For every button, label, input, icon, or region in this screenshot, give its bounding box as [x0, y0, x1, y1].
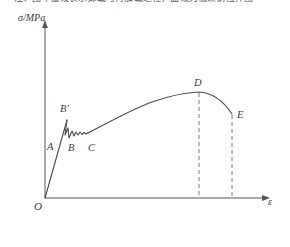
page-root: 注：图中虚线表示卸载与再加载过程，曲线为低碳钢拉伸图 · σ/MPa ε O: [0, 0, 290, 247]
clipped-header-strip: 注：图中虚线表示卸载与再加载过程，曲线为低碳钢拉伸图 ·: [0, 0, 290, 8]
point-label-A: A: [46, 141, 54, 152]
curve-yield-plateau: [65, 120, 88, 138]
x-axis-label: ε: [268, 196, 272, 207]
x-axis: [45, 195, 270, 201]
origin-label: O: [34, 200, 42, 212]
point-label-B-prime: B': [60, 103, 69, 114]
point-label-C: C: [88, 142, 96, 153]
curve-strain-hardening: [88, 92, 232, 133]
point-label-E: E: [236, 109, 244, 120]
header-page-marker: ·: [282, 0, 285, 1]
curve-elastic-line: [45, 120, 67, 198]
y-axis-label: σ/MPa: [18, 12, 45, 23]
stress-strain-figure: σ/MPa ε O A B' B C D E: [0, 8, 290, 247]
y-axis: [42, 20, 48, 198]
point-label-B: B: [68, 142, 75, 153]
point-label-D: D: [193, 77, 202, 88]
header-caption-text: 注：图中虚线表示卸载与再加载过程，曲线为低碳钢拉伸图: [14, 0, 253, 4]
stress-strain-chart: σ/MPa ε O A B' B C D E: [0, 8, 290, 247]
